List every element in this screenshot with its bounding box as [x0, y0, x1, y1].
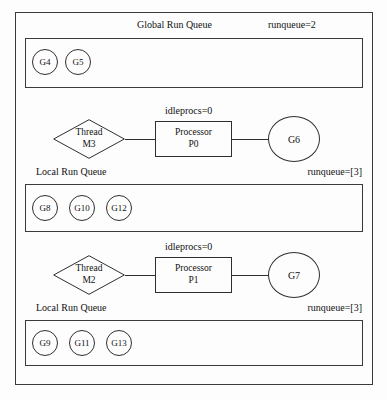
connector-thread-processor-1 — [125, 275, 155, 276]
connector-processor-goroutine-1 — [232, 275, 268, 276]
connector-processor-goroutine-0 — [232, 139, 268, 140]
idleprocs-label-1: idleprocs=0 — [165, 242, 212, 252]
global-queue-goroutine: G5 — [65, 49, 91, 75]
global-runqueue-count: runqueue=2 — [268, 20, 316, 30]
local-queue-goroutine: G12 — [106, 195, 132, 221]
processor-label-line1: Processor — [175, 127, 212, 139]
connector-thread-processor-0 — [125, 139, 155, 140]
local-runqueue-count-0: runqueue=[3] — [307, 167, 362, 177]
local-queue-goroutine: G13 — [106, 330, 132, 356]
local-run-queue-title-1: Local Run Queue — [36, 303, 107, 313]
local-queue-goroutine: G11 — [69, 330, 95, 356]
idleprocs-label-0: idleprocs=0 — [165, 106, 212, 116]
processor-label-line2: P1 — [188, 275, 198, 287]
local-queue-goroutine: G10 — [69, 195, 95, 221]
thread-diamond-m2: Thread M2 — [53, 255, 125, 295]
running-goroutine-g7: G7 — [268, 252, 320, 298]
local-run-queue-title-0: Local Run Queue — [36, 167, 107, 177]
local-queue-goroutine: G8 — [32, 195, 58, 221]
local-runqueue-count-1: runqueue=[3] — [307, 303, 362, 313]
processor-label-line1: Processor — [175, 263, 212, 275]
processor-box-p0: Processor P0 — [155, 121, 232, 157]
local-queue-goroutine: G9 — [32, 330, 58, 356]
processor-box-p1: Processor P1 — [155, 257, 232, 293]
diamond-shape-icon — [53, 255, 125, 295]
global-run-queue-title: Global Run Queue — [137, 20, 212, 30]
diamond-shape-icon — [53, 119, 125, 159]
processor-label-line2: P0 — [188, 139, 198, 151]
global-queue-goroutine: G4 — [32, 49, 58, 75]
thread-diamond-m3: Thread M3 — [53, 119, 125, 159]
running-goroutine-g6: G6 — [268, 116, 320, 162]
scheduler-diagram: Global Run Queue runqueue=2 G4 G5 idlepr… — [0, 0, 387, 400]
